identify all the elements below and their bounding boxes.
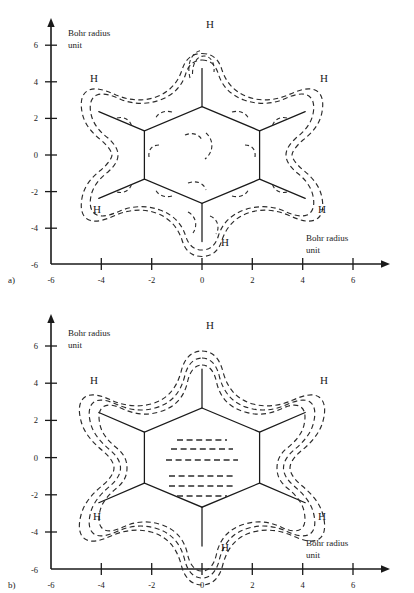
ch-bond-lower-left-b — [99, 483, 145, 503]
y-ticks-a: 6 4 2 0 -2 -4 -6 — [31, 40, 57, 269]
x-tick-label: 6 — [351, 580, 355, 590]
y-tick-label: 2 — [34, 415, 38, 425]
inner-lobe-v7-a — [188, 182, 206, 190]
benzene-skeleton-a — [99, 69, 305, 242]
hydrogen-label-upper-right-a: H — [320, 72, 328, 84]
ch-bond-upper-left-b — [99, 413, 145, 433]
hydrogen-label-top-b: H — [206, 319, 214, 331]
x-tick-label: -6 — [47, 580, 54, 590]
ch-bond-upper-right-b — [260, 413, 306, 433]
ch-bond-upper-right-a — [260, 112, 306, 131]
y-tick-label: -2 — [31, 490, 38, 500]
x-ticks-b: -6 -4 -2 0 2 4 6 — [47, 563, 355, 590]
ch-bond-lower-left-a — [99, 179, 145, 198]
x-ticks-a: -6 -4 -2 0 2 4 6 — [47, 258, 355, 285]
hydrogen-label-bottom-a: H — [221, 236, 229, 248]
x-axis-arrow-a — [381, 260, 390, 267]
hydrogen-label-lower-left-b: H — [93, 510, 101, 522]
x-tick-label: 2 — [250, 580, 254, 590]
hydrogen-label-bottom-b: H — [221, 541, 229, 553]
x-tick-label: 6 — [351, 275, 355, 285]
hydrogen-labels-a: H H H H H H — [90, 18, 328, 248]
y-tick-label: -4 — [31, 527, 39, 537]
inner-lobe-centre-left-a — [185, 134, 202, 140]
x-tick-label: -4 — [98, 275, 106, 285]
inner-lobe-v4-a — [155, 111, 172, 120]
panel-label-b: b) — [8, 580, 16, 590]
x-tick-label: 4 — [301, 580, 306, 590]
ch-bond-lower-right-a — [260, 179, 306, 198]
y-axis-arrow-b — [47, 314, 54, 323]
benzene-ring-b — [144, 408, 259, 507]
x-axis-title-line1-b: Bohr radius — [306, 538, 349, 548]
y-axis-title-line2-a: unit — [68, 40, 83, 50]
y-ticks-b: 6 4 2 0 -2 -4 -6 — [31, 341, 57, 575]
benzene-skeleton-b — [99, 369, 305, 546]
inner-lobe-top-a — [193, 56, 215, 74]
inner-nodal-lines-b — [166, 440, 238, 496]
y-axis-title-line1-a: Bohr radius — [68, 28, 111, 38]
x-tick-label: -2 — [148, 580, 155, 590]
x-tick-label: -2 — [148, 275, 155, 285]
hydrogen-label-top-a: H — [206, 18, 214, 30]
y-axis-title-line2-b: unit — [68, 340, 83, 350]
y-tick-label: 2 — [34, 113, 38, 123]
panel-label-a: a) — [8, 275, 15, 285]
x-tick-label: 2 — [250, 275, 254, 285]
x-tick-label: 4 — [301, 275, 306, 285]
x-tick-label: -4 — [98, 580, 106, 590]
benzene-ring-a — [144, 107, 259, 204]
panel-a: 6 4 2 0 -2 -4 -6 -6 -4 -2 0 2 4 6 Bohr r… — [0, 0, 414, 296]
y-tick-label: 6 — [34, 40, 38, 50]
ch-bond-upper-left-a — [99, 112, 145, 131]
y-tick-label: 4 — [34, 378, 39, 388]
y-tick-label: -6 — [31, 260, 38, 270]
hydrogen-label-upper-left-a: H — [90, 72, 98, 84]
y-tick-label: 0 — [34, 150, 38, 160]
y-axis-title-line1-b: Bohr radius — [68, 328, 111, 338]
inner-lobe-v2-a — [245, 145, 255, 157]
y-tick-label: -2 — [31, 187, 38, 197]
y-tick-label: 6 — [34, 341, 38, 351]
contour-plot-a: 6 4 2 0 -2 -4 -6 -6 -4 -2 0 2 4 6 Bohr r… — [0, 0, 414, 296]
y-tick-label: -6 — [31, 565, 38, 575]
hydrogen-label-lower-right-b: H — [318, 510, 326, 522]
x-axis-title-line2-b: unit — [306, 550, 321, 560]
x-tick-label: -6 — [47, 275, 54, 285]
panel-b: 6 4 2 0 -2 -4 -6 -6 -4 -2 0 2 4 6 Bohr r… — [0, 296, 414, 593]
inner-lobe-v1-a — [232, 111, 249, 120]
inner-lobe-v8-a — [188, 212, 196, 233]
hydrogen-label-upper-right-b: H — [320, 374, 328, 386]
contour-plot-b: 6 4 2 0 -2 -4 -6 -6 -4 -2 0 2 4 6 Bohr r… — [0, 296, 414, 593]
x-axis-arrow-b — [381, 565, 390, 572]
x-tick-label: 0 — [200, 275, 204, 285]
y-tick-label: 0 — [34, 453, 38, 463]
x-axis-title-line1-a: Bohr radius — [306, 233, 349, 243]
y-tick-label: 4 — [34, 77, 39, 87]
y-axis-arrow-a — [47, 18, 54, 27]
y-tick-label: -4 — [31, 223, 39, 233]
x-axis-title-line2-a: unit — [306, 245, 321, 255]
hydrogen-label-lower-left-a: H — [93, 203, 101, 215]
inner-lobe-centre-a — [205, 133, 212, 159]
hydrogen-label-lower-right-a: H — [318, 203, 326, 215]
axes-a — [47, 18, 390, 268]
axes-b — [47, 314, 390, 573]
hydrogen-labels-b: H H H H H H — [90, 319, 328, 553]
inner-lobe-v9-a — [210, 216, 218, 234]
inner-lobe-v5-a — [149, 145, 159, 157]
hydrogen-label-upper-left-b: H — [90, 374, 98, 386]
